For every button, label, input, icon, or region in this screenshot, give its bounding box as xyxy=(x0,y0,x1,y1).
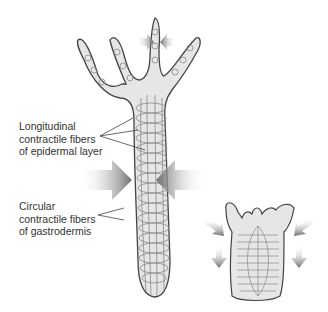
arrow-down-left-icon xyxy=(204,218,224,236)
arrow-small-left-icon xyxy=(160,34,176,50)
label-line: of gastrodermis xyxy=(19,225,95,238)
label-line: Longitudinal xyxy=(19,120,102,133)
arrow-down-right-icon xyxy=(294,218,314,236)
label-line: contractile fibers xyxy=(19,133,102,146)
label-gastrodermis-fibers: Circular contractile fibers of gastroder… xyxy=(19,200,95,238)
arrow-down-icon xyxy=(211,245,227,268)
label-line: of epidermal layer xyxy=(19,145,102,158)
contracted-hydra xyxy=(204,203,314,301)
label-line: contractile fibers xyxy=(19,213,95,226)
hydra-body xyxy=(77,18,200,297)
label-epidermal-fibers: Longitudinal contractile fibers of epide… xyxy=(19,120,102,158)
arrow-down-icon xyxy=(291,245,307,268)
arrow-right-icon xyxy=(80,160,132,200)
extended-hydra xyxy=(77,18,200,297)
label-line: Circular xyxy=(19,200,95,213)
